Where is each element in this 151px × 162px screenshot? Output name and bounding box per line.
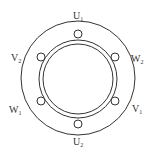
terminal-V2	[37, 53, 45, 61]
terminal-W1	[37, 97, 45, 105]
middle-ring	[39, 40, 117, 118]
terminal-U1	[74, 30, 82, 38]
label-W1: W1	[9, 104, 21, 116]
label-W2: W2	[131, 53, 143, 65]
terminal-U2	[74, 120, 82, 128]
terminal-W2	[111, 53, 119, 61]
label-V1: V1	[132, 103, 142, 115]
label-U1: U1	[73, 10, 83, 22]
inner-ring	[43, 44, 113, 114]
terminal-V1	[111, 97, 119, 105]
label-V2: V2	[11, 52, 21, 64]
label-U2: U2	[73, 136, 83, 148]
terminal-diagram: U1 W2 V1 U2 W1 V2	[0, 0, 151, 162]
